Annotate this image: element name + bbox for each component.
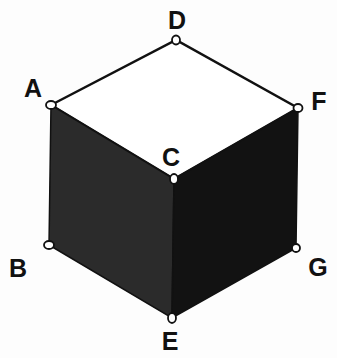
label-b: B <box>9 254 27 282</box>
vertex-a <box>46 101 56 109</box>
vertex-e <box>168 313 176 323</box>
label-e: E <box>162 327 179 355</box>
vertex-d <box>172 36 180 45</box>
label-f: F <box>311 87 326 115</box>
label-d: D <box>168 6 186 34</box>
label-c: C <box>162 143 180 171</box>
vertex-b <box>44 241 54 249</box>
label-a: A <box>24 74 42 102</box>
cube-diagram: D A F C B G E <box>0 0 337 358</box>
vertex-c <box>170 174 178 184</box>
vertex-g <box>292 244 300 252</box>
label-g: G <box>308 253 327 281</box>
vertex-f <box>294 104 303 112</box>
